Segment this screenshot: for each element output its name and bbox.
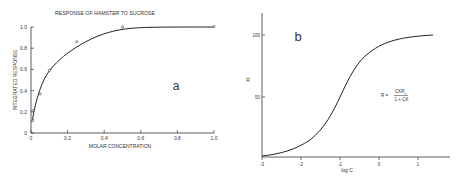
chart-b-y-tick-labels: 50 100 — [252, 33, 260, 100]
svg-text:0.4: 0.4 — [101, 135, 108, 141]
svg-text:1: 1 — [417, 162, 420, 167]
chart-a-x-tick-labels: 0 0.2 0.4 0.6 0.8 1.0 — [30, 135, 218, 141]
svg-text:0.4: 0.4 — [20, 88, 27, 94]
chart-a-fit-curve — [32, 27, 214, 122]
chart-b: 50 100 -3 -2 -1 0 1 log C R b R = CKR s … — [246, 13, 450, 173]
svg-text:1 + CK: 1 + CK — [395, 97, 409, 102]
svg-text:0.8: 0.8 — [174, 135, 181, 141]
chart-a-x-ticks — [31, 130, 214, 133]
svg-text:s: s — [405, 92, 407, 96]
svg-text:0.2: 0.2 — [64, 135, 71, 141]
svg-text:0.6: 0.6 — [137, 135, 144, 141]
svg-text:0.2: 0.2 — [20, 109, 27, 115]
svg-text:0.8: 0.8 — [20, 45, 27, 51]
chart-b-x-label: log C — [341, 167, 353, 173]
figure: RESPONSE OF HAMSTER TO SUCROSE 0 0.2 0.4… — [0, 0, 458, 183]
svg-text:0: 0 — [378, 162, 381, 167]
chart-a-title: RESPONSE OF HAMSTER TO SUCROSE — [55, 10, 155, 16]
chart-a-x-label: MOLAR CONCENTRATION — [89, 143, 152, 149]
chart-a-y-tick-labels: 0 0.2 0.4 0.6 0.8 1.0 — [20, 24, 27, 136]
svg-text:1.0: 1.0 — [20, 24, 27, 30]
svg-text:1.0: 1.0 — [211, 135, 218, 141]
chart-b-y-ticks — [262, 35, 265, 97]
svg-text:100: 100 — [252, 33, 260, 38]
svg-text:0.6: 0.6 — [20, 66, 27, 72]
formula: R = CKR s 1 + CK — [381, 89, 408, 102]
svg-text:-3: -3 — [260, 162, 264, 167]
chart-a-data-points — [32, 25, 215, 121]
svg-text:-2: -2 — [299, 162, 303, 167]
chart-a-y-label: INTEGRATED RESPONSE — [12, 49, 18, 111]
chart-b-x-ticks — [262, 157, 418, 160]
svg-text:R =: R = — [381, 93, 389, 98]
chart-b-panel-label: b — [294, 29, 301, 44]
svg-text:0: 0 — [30, 135, 33, 141]
chart-b-x-tick-labels: -3 -2 -1 0 1 — [260, 162, 420, 167]
chart-b-y-label: R — [246, 77, 250, 83]
svg-text:0: 0 — [24, 130, 27, 136]
chart-a: RESPONSE OF HAMSTER TO SUCROSE 0 0.2 0.4… — [12, 10, 218, 149]
chart-a-panel-label: a — [173, 79, 180, 93]
svg-text:50: 50 — [255, 95, 261, 100]
